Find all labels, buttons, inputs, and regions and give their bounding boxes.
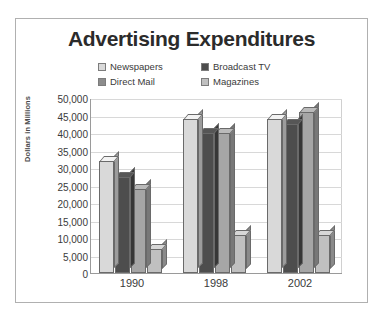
bar-newspapers-1998[interactable] [183,119,198,273]
y-axis-tick-label: 15,000 [57,216,88,227]
bar-newspapers-1990[interactable] [99,161,114,273]
x-axis-tick-label: 1990 [120,277,144,289]
plot-area [90,99,342,274]
bar-side-face [146,179,151,268]
y-axis-tick-label: 5,000 [63,251,88,262]
y-axis-tick-labels: 50,00045,00040,00035,00030,00025,00020,0… [40,99,88,274]
bar-side-face [230,123,235,268]
bar-front-face [267,119,282,273]
bar-side-face [198,109,203,268]
bar-newspapers-2002[interactable] [267,119,282,273]
y-axis-tick-label: 40,000 [57,129,88,140]
x-axis-tick-label: 2002 [288,277,312,289]
y-axis-tick-label: 50,000 [57,94,88,105]
chart-frame: Advertising Expenditures NewspapersBroad… [15,18,368,303]
x-axis-tick-label: 1998 [204,277,228,289]
bar-side-face [214,123,219,268]
bar-side-face [130,167,135,268]
bar-side-face [298,114,303,268]
bar-front-face [99,161,114,273]
plot-area-wrapper: Dollars in Millions 50,00045,00040,00035… [16,19,368,303]
y-axis-tick-label: 30,000 [57,164,88,175]
y-axis-tick-label: 0 [82,269,88,280]
bar-front-face [183,119,198,273]
y-axis-title: Dollars in Millions [23,84,32,174]
bar-group [91,99,175,273]
y-axis-tick-label: 10,000 [57,234,88,245]
bar-group [175,99,259,273]
y-axis-tick-label: 25,000 [57,181,88,192]
bar-side-face [114,151,119,268]
bar-side-face [314,102,319,268]
y-axis-tick-label: 45,000 [57,111,88,122]
y-axis-tick-label: 35,000 [57,146,88,157]
bar-side-face [162,239,167,269]
bar-side-face [282,109,287,268]
y-axis-tick-label: 20,000 [57,199,88,210]
bar-group [259,99,343,273]
x-axis-tick-labels: 199019982002 [90,277,342,295]
